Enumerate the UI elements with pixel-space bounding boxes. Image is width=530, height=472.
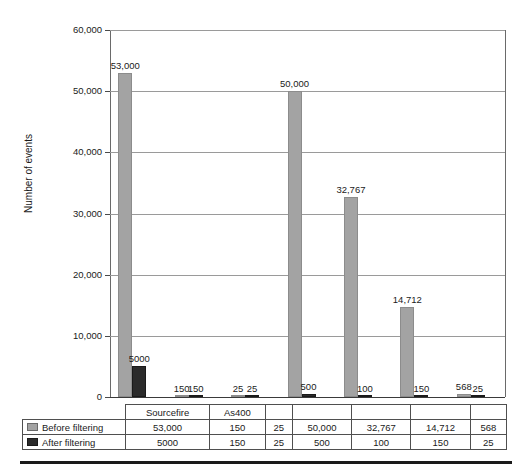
legend-swatch-before-icon — [27, 423, 38, 431]
bar-value-label: 25 — [247, 384, 258, 394]
table-column-header — [352, 405, 411, 420]
bar-before-filtering — [288, 91, 302, 397]
y-axis-tick-label: 30,000 — [56, 209, 102, 219]
table-cell: 5000 — [126, 435, 210, 450]
table-cell: 32,767 — [352, 420, 411, 435]
bar-after-filtering — [358, 395, 372, 397]
bar-value-label: 150 — [188, 384, 204, 394]
bar-value-label: 568 — [456, 382, 472, 392]
table-cell: 25 — [265, 420, 292, 435]
gridline — [110, 91, 505, 92]
table-row: After filtering50001502550010015025 — [23, 435, 507, 450]
bar-value-label: 14,712 — [393, 295, 422, 305]
y-axis-tick-label: 60,000 — [56, 25, 102, 35]
table-column-header — [470, 405, 506, 420]
table-header-row: SourcefireAs400 — [23, 405, 507, 420]
axis-baseline — [110, 397, 505, 398]
bar-value-label: 100 — [357, 384, 373, 394]
gridline — [110, 152, 505, 153]
bar-before-filtering — [344, 197, 358, 397]
table-column-header — [411, 405, 470, 420]
legend-label: Before filtering — [42, 422, 103, 433]
bar-after-filtering — [132, 366, 146, 397]
bar-value-label: 50,000 — [280, 79, 309, 89]
table-cell: 53,000 — [126, 420, 210, 435]
bar-value-label: 25 — [472, 384, 483, 394]
bar-after-filtering — [414, 395, 428, 397]
table-cell: 500 — [292, 435, 351, 450]
gridline — [110, 275, 505, 276]
table-row: Before filtering53,0001502550,00032,7671… — [23, 420, 507, 435]
table-column-header — [265, 405, 292, 420]
gridline — [110, 336, 505, 337]
bar-value-label: 500 — [301, 382, 317, 392]
y-axis-tick-label: 40,000 — [56, 147, 102, 157]
table-cell: 50,000 — [292, 420, 351, 435]
table-row-header: Before filtering — [23, 420, 126, 435]
table-cell: 100 — [352, 435, 411, 450]
gridline — [110, 30, 505, 31]
legend-swatch-after-icon — [27, 438, 38, 446]
bar-after-filtering — [471, 395, 485, 397]
table-cell: 25 — [265, 435, 292, 450]
y-axis-tick-label: 10,000 — [56, 331, 102, 341]
table-column-header — [292, 405, 351, 420]
legend-label: After filtering — [42, 437, 95, 448]
bar-before-filtering — [457, 394, 471, 397]
table-column-header: As400 — [210, 405, 266, 420]
data-table: SourcefireAs400 Before filtering53,00015… — [22, 404, 507, 450]
bar-value-label: 53,000 — [111, 61, 140, 71]
bar-value-label: 5000 — [129, 354, 150, 364]
bar-after-filtering — [189, 395, 203, 397]
table-cell: 568 — [470, 420, 506, 435]
y-axis-tick-label: 0 — [56, 392, 102, 402]
table-cell: 150 — [411, 435, 470, 450]
bar-value-label: 32,767 — [336, 185, 365, 195]
table-cell: 14,712 — [411, 420, 470, 435]
table-column-header: Sourcefire — [126, 405, 210, 420]
bar-after-filtering — [245, 395, 259, 397]
y-axis-tick-label: 20,000 — [56, 270, 102, 280]
figure: Number of events 010,00020,00030,00040,0… — [0, 0, 530, 472]
bar-before-filtering — [400, 307, 414, 397]
table-cell: 150 — [210, 420, 266, 435]
gridline — [110, 214, 505, 215]
bar-after-filtering — [302, 394, 316, 397]
y-axis-tick-label: 50,000 — [56, 86, 102, 96]
bar-value-label: 25 — [233, 384, 244, 394]
table-cell: 150 — [210, 435, 266, 450]
table-cell: 25 — [470, 435, 506, 450]
bar-before-filtering — [231, 395, 245, 397]
bar-value-label: 150 — [413, 384, 429, 394]
chart-plot-area: Number of events 010,00020,00030,00040,0… — [0, 0, 530, 400]
bar-before-filtering — [175, 395, 189, 397]
plot-right-border — [505, 30, 506, 397]
bottom-rule — [20, 461, 512, 464]
y-axis-title: Number of events — [23, 94, 34, 254]
table-row-header: After filtering — [23, 435, 126, 450]
bar-before-filtering — [118, 73, 132, 397]
table-corner-cell — [23, 405, 126, 420]
